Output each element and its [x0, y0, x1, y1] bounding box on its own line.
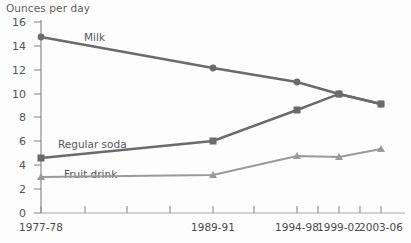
series-line-regular-soda: [41, 94, 381, 158]
series-markers-fruit-drink: [37, 145, 385, 180]
y-axis-ticks: [34, 22, 41, 213]
x-axis-ticks: [41, 206, 381, 213]
beverage-consumption-line-chart: Ounces per day 0 2 4 6 8 10 12 14 16 197…: [0, 0, 411, 243]
chart-canvas: [0, 0, 411, 243]
series-markers-regular-soda: [38, 91, 385, 162]
